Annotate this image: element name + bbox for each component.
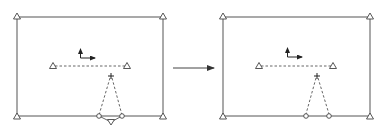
dashed-link <box>99 78 110 115</box>
plus-icon <box>314 73 320 79</box>
dashed-link <box>318 78 329 114</box>
dashed-link <box>112 78 122 115</box>
panel-after <box>220 13 374 119</box>
triangle-icon <box>14 13 21 19</box>
dashed-link <box>306 78 316 114</box>
frame <box>223 17 370 116</box>
triangle-icon <box>330 63 337 69</box>
plus-icon <box>108 73 114 79</box>
circle-joint-icon <box>327 114 332 119</box>
diagram-canvas <box>0 0 387 132</box>
triangle-down-icon <box>108 120 115 126</box>
circle-joint-icon <box>304 114 309 119</box>
triangle-icon <box>256 63 263 69</box>
triangle-icon <box>220 13 227 19</box>
circle-joint-icon <box>97 114 102 119</box>
circle-joint-icon <box>120 114 125 119</box>
triangle-icon <box>367 13 374 19</box>
corner-support-icons <box>220 13 374 119</box>
triangle-icon <box>160 13 167 19</box>
triangle-icon <box>124 63 131 69</box>
frame <box>17 17 163 116</box>
triangle-icon <box>50 63 57 69</box>
axes-icon <box>81 49 96 58</box>
panel-before <box>14 13 167 125</box>
corner-support-icons <box>14 13 167 119</box>
axes-icon <box>288 48 303 57</box>
